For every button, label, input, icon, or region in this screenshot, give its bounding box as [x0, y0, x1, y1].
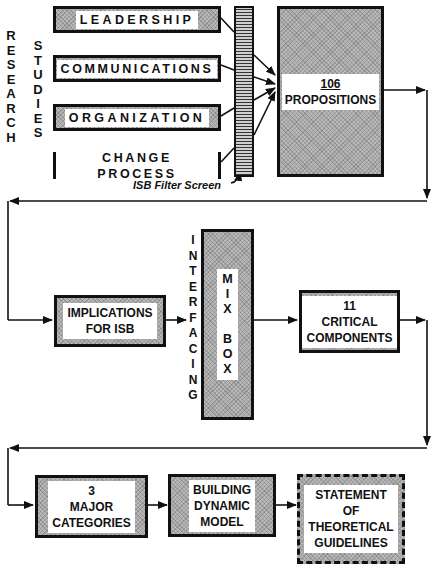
filter-caption: ISB Filter Screen [133, 179, 221, 191]
implications-box: IMPLICATIONS FOR ISB [54, 295, 166, 347]
propositions-box: 106 PROPOSITIONS [277, 6, 384, 177]
research-label: R E S E A R C H [4, 29, 18, 145]
organization-box: ORGANIZATION [53, 104, 221, 131]
major-categories-label: 3 MAJOR CATEGORIES [48, 481, 134, 533]
mix-box-label: M I X B O X [217, 269, 237, 380]
major-categories-box: 3 MAJOR CATEGORIES [35, 475, 148, 538]
propositions-text: PROPOSITIONS [285, 92, 376, 108]
theoretical-guidelines-label: STATEMENT OF THEORETICAL GUIDELINES [304, 485, 397, 553]
theoretical-guidelines-box: STATEMENT OF THEORETICAL GUIDELINES [297, 474, 405, 564]
organization-label: ORGANIZATION [65, 109, 209, 127]
critical-components-box: 11 CRITICAL COMPONENTS [299, 290, 400, 353]
change-process-label: CHANGE PROCESS [56, 149, 218, 183]
communications-box: COMMUNICATIONS [53, 55, 221, 82]
communications-label: COMMUNICATIONS [57, 60, 218, 78]
leadership-label: LEADERSHIP [76, 11, 199, 29]
critical-components-label: 11 CRITICAL COMPONENTS [302, 296, 396, 348]
implications-label: IMPLICATIONS FOR ISB [63, 303, 156, 339]
propositions-number: 106 [285, 76, 376, 92]
dynamic-model-label: BUILDING DYNAMIC MODEL [189, 480, 255, 532]
studies-label: S T U D I E S [31, 39, 45, 141]
interfacing-label: I N T E R F A C I N G [186, 233, 200, 404]
leadership-box: LEADERSHIP [53, 6, 221, 33]
isb-filter-screen [234, 6, 254, 177]
dynamic-model-box: BUILDING DYNAMIC MODEL [168, 474, 276, 537]
change-process-box: CHANGE PROCESS [53, 152, 221, 179]
mix-box: M I X B O X [201, 229, 254, 420]
propositions-label: 106 PROPOSITIONS [282, 74, 379, 110]
